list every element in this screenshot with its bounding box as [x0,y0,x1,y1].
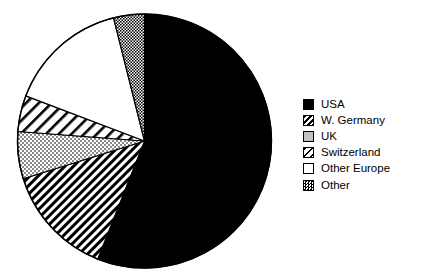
pie-chart-plot-area [0,0,290,279]
legend-swatch-other [303,180,314,191]
legend-label-usa: USA [321,99,345,110]
legend-swatch-usa [303,99,314,110]
legend-label-switzerland: Switzerland [321,147,380,158]
legend-swatch-other-europe [303,163,314,174]
pie-slice-group [18,14,272,268]
legend-label-w-germany: W. Germany [321,115,385,126]
chart-legend: USA W. Germany UK Switzerland Other Euro… [303,96,427,193]
legend-item-usa[interactable]: USA [303,96,427,112]
legend-swatch-uk [303,131,314,142]
legend-swatch-w-germany [303,115,314,126]
pie-chart-svg [0,0,290,279]
legend-label-other-europe: Other Europe [321,163,390,174]
legend-label-uk: UK [321,131,337,142]
legend-item-other[interactable]: Other [303,177,427,193]
legend-item-switzerland[interactable]: Switzerland [303,145,427,161]
legend-item-uk[interactable]: UK [303,128,427,144]
legend-item-w-germany[interactable]: W. Germany [303,112,427,128]
legend-label-other: Other [321,180,350,191]
legend-swatch-switzerland [303,147,314,158]
legend-item-other-europe[interactable]: Other Europe [303,161,427,177]
pie-chart-figure: USA W. Germany UK Switzerland Other Euro… [0,0,429,279]
